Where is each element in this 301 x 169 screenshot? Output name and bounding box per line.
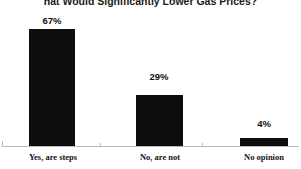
plot-area: 67% 29% 4% Yes, are steps No, are not No… [0, 0, 301, 169]
axis-tick [100, 143, 101, 147]
x-axis-label-no-opinion: No opinion [223, 152, 301, 162]
bar-yes-are-steps [29, 29, 75, 146]
bar-chart: hat Would Significantly Lower Gas Prices… [0, 0, 301, 169]
x-axis-label-no-are-not: No, are not [119, 152, 201, 162]
bar-no-are-not [136, 95, 183, 146]
x-axis-line [2, 146, 299, 147]
bar-value-label: 67% [19, 15, 85, 26]
x-axis-label-yes-are-steps: Yes, are steps [12, 152, 94, 162]
bar-value-label: 29% [126, 71, 192, 82]
axis-tick [202, 143, 203, 147]
bar-no-opinion [240, 138, 288, 146]
bar-value-label: 4% [231, 118, 297, 129]
